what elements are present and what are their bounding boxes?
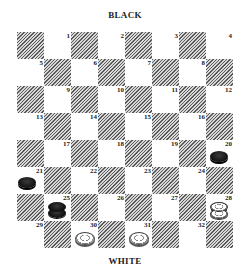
hatched-square [17, 140, 44, 167]
white-checker-icon[interactable] [75, 232, 95, 245]
board-square-9: 9 [44, 86, 71, 113]
hatched-square [71, 32, 98, 59]
square-number: 27 [171, 194, 178, 202]
board-square-2: 2 [98, 32, 125, 59]
white-checker-icon[interactable] [129, 232, 149, 245]
white-side-label: WHITE [0, 256, 250, 266]
square-number: 1 [67, 32, 71, 40]
hatched-square [125, 86, 152, 113]
hatched-square [98, 221, 125, 248]
square-number: 16 [198, 113, 205, 121]
hatched-square [125, 140, 152, 167]
board-square-4: 4 [206, 32, 233, 59]
square-number: 13 [36, 113, 43, 121]
hatched-square [179, 194, 206, 221]
square-number: 2 [121, 32, 125, 40]
black-king-icon[interactable] [48, 200, 66, 218]
board-square-16: 16 [179, 113, 206, 140]
square-number: 32 [198, 221, 205, 229]
square-number: 15 [144, 113, 151, 121]
square-number: 12 [225, 86, 232, 94]
board-square-27: 27 [152, 194, 179, 221]
square-number: 26 [117, 194, 124, 202]
board-square-3: 3 [152, 32, 179, 59]
square-number: 4 [229, 32, 233, 40]
hatched-square [44, 113, 71, 140]
black-checker-icon[interactable] [210, 151, 228, 162]
hatched-square [152, 167, 179, 194]
square-number: 29 [36, 221, 43, 229]
hatched-square [71, 194, 98, 221]
square-number: 22 [90, 167, 97, 175]
hatched-square [71, 140, 98, 167]
hatched-square [125, 194, 152, 221]
hatched-square [17, 194, 44, 221]
square-number: 20 [225, 140, 232, 148]
board-square-18: 18 [98, 140, 125, 167]
hatched-square [152, 59, 179, 86]
board-square-19: 19 [152, 140, 179, 167]
square-number: 17 [63, 140, 70, 148]
hatched-square [44, 167, 71, 194]
hatched-square [17, 32, 44, 59]
square-number: 18 [117, 140, 124, 148]
square-number: 30 [90, 221, 97, 229]
square-number: 21 [36, 167, 43, 175]
hatched-square [44, 59, 71, 86]
hatched-square [98, 167, 125, 194]
square-number: 5 [40, 59, 44, 67]
board-square-23: 23 [125, 167, 152, 194]
hatched-square [98, 59, 125, 86]
hatched-square [179, 140, 206, 167]
board-square-14: 14 [71, 113, 98, 140]
square-number: 11 [171, 86, 178, 94]
square-number: 23 [144, 167, 151, 175]
board-square-6: 6 [71, 59, 98, 86]
hatched-square [152, 221, 179, 248]
board-square-26: 26 [98, 194, 125, 221]
square-number: 7 [148, 59, 152, 67]
hatched-square [17, 86, 44, 113]
board-square-24: 24 [179, 167, 206, 194]
hatched-square [206, 221, 233, 248]
square-number: 31 [144, 221, 151, 229]
board-square-17: 17 [44, 140, 71, 167]
square-number: 9 [67, 86, 71, 94]
hatched-square [206, 113, 233, 140]
board-square-10: 10 [98, 86, 125, 113]
hatched-square [98, 113, 125, 140]
square-number: 6 [94, 59, 98, 67]
square-number: 3 [175, 32, 179, 40]
square-number: 8 [202, 59, 206, 67]
hatched-square [206, 59, 233, 86]
hatched-square [125, 32, 152, 59]
hatched-square [206, 167, 233, 194]
board-square-1: 1 [44, 32, 71, 59]
board-square-15: 15 [125, 113, 152, 140]
square-number: 19 [171, 140, 178, 148]
board-square-7: 7 [125, 59, 152, 86]
square-number: 14 [90, 113, 97, 121]
board-square-22: 22 [71, 167, 98, 194]
square-number: 10 [117, 86, 124, 94]
hatched-square [44, 221, 71, 248]
board-square-13: 13 [17, 113, 44, 140]
board-square-32: 32 [179, 221, 206, 248]
hatched-square [179, 32, 206, 59]
black-side-label: BLACK [0, 10, 250, 20]
square-number: 24 [198, 167, 205, 175]
hatched-square [152, 113, 179, 140]
board-square-29: 29 [17, 221, 44, 248]
board-square-11: 11 [152, 86, 179, 113]
white-king-icon[interactable] [210, 200, 228, 218]
board-square-8: 8 [179, 59, 206, 86]
checkerboard: 1234567891011121314151617181920212223242… [17, 32, 233, 248]
black-checker-icon[interactable] [18, 177, 36, 188]
board-square-12: 12 [206, 86, 233, 113]
board-square-5: 5 [17, 59, 44, 86]
hatched-square [71, 86, 98, 113]
hatched-square [179, 86, 206, 113]
